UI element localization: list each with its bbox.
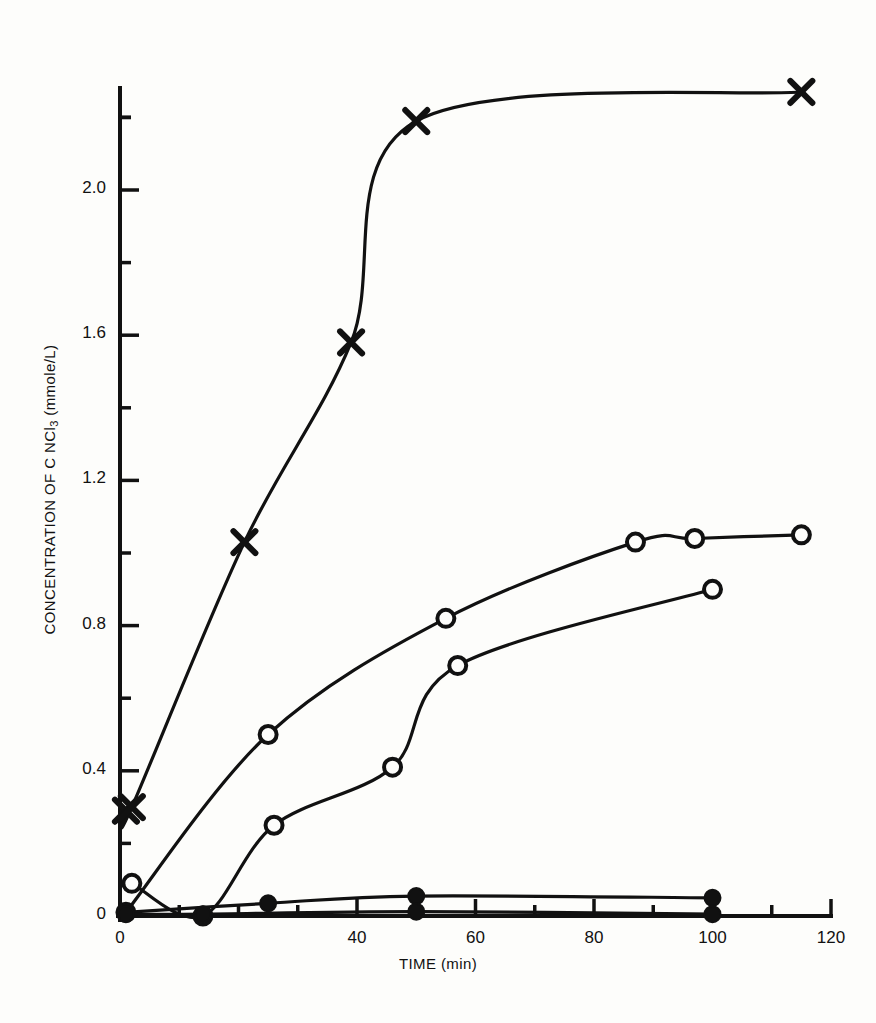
y-axis-tick-label: 2.0 (34, 178, 106, 198)
x-axis-tick-label: 0 (75, 928, 165, 948)
marker-open-circle (449, 657, 466, 674)
x-axis-tick-label: 80 (549, 928, 639, 948)
marker-open-circle (123, 875, 140, 892)
marker-open-circle (793, 526, 810, 543)
marker-open-circle (384, 759, 401, 776)
marker-open-circle (704, 581, 721, 598)
marker-filled-circle (705, 906, 721, 922)
series-line (132, 589, 713, 917)
marker-open-circle (260, 726, 277, 743)
y-axis-title-prefix: CONCENTRATION OF C NCl (41, 427, 58, 635)
marker-filled-circle (705, 890, 721, 906)
series-line (122, 92, 802, 828)
marker-filled-circle (408, 904, 424, 920)
x-axis-tick-label: 60 (431, 928, 521, 948)
y-axis-tick-label: 1.6 (34, 323, 106, 343)
marker-open-circle (686, 530, 703, 547)
marker-open-circle (627, 534, 644, 551)
marker-open-circle (437, 610, 454, 627)
chart-series (115, 81, 812, 828)
x-axis-tick-label: 120 (786, 928, 876, 948)
x-axis-title: TIME (min) (0, 955, 876, 972)
y-axis-title-suffix: (mmole/L) (41, 345, 58, 421)
y-axis-tick-label: 1.2 (34, 468, 106, 488)
chart-plot-area (0, 0, 876, 1023)
x-axis-tick-label: 40 (312, 928, 402, 948)
y-axis-tick-label: 0 (34, 904, 106, 924)
marker-filled-circle (260, 895, 276, 911)
y-axis-tick-label: 0.4 (34, 759, 106, 779)
x-axis-tick-label: 100 (668, 928, 758, 948)
marker-filled-circle (118, 906, 134, 922)
marker-filled-circle (195, 906, 211, 922)
marker-filled-circle (408, 888, 424, 904)
y-axis-tick-label: 0.8 (34, 614, 106, 634)
chart-figure: CONCENTRATION OF C NCl3 (mmole/L) TIME (… (0, 0, 876, 1023)
y-axis-title-subscript: 3 (48, 420, 60, 427)
marker-open-circle (266, 817, 283, 834)
